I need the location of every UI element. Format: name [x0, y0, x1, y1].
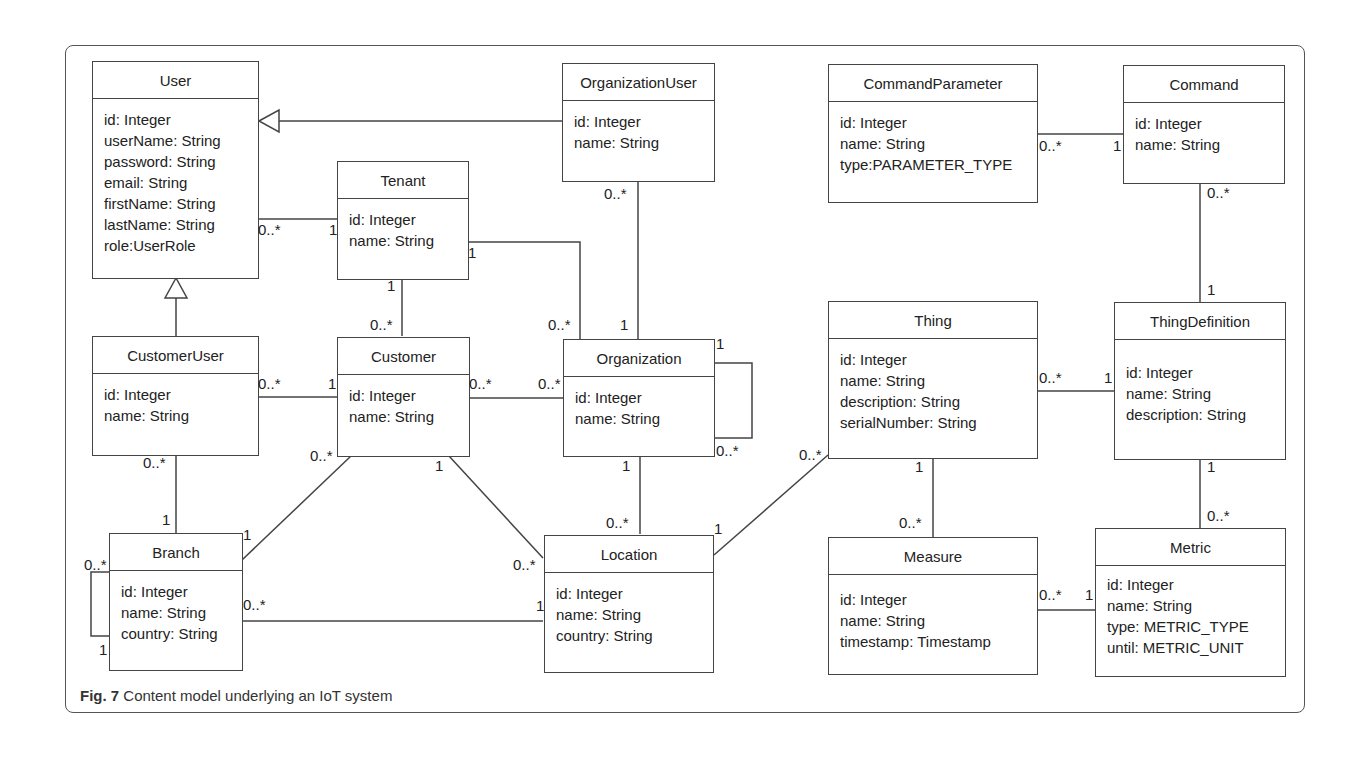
multiplicity-label: 1 — [622, 458, 630, 474]
attribute: id: Integer — [1107, 574, 1285, 595]
multiplicity-label: 1 — [716, 336, 724, 352]
attribute: id: Integer — [1126, 362, 1285, 383]
attribute: firstName: String — [104, 193, 258, 214]
attribute: password: String — [104, 151, 258, 172]
attribute: lastName: String — [104, 214, 258, 235]
class-user-attributes: id: Integer userName: String password: S… — [93, 99, 258, 256]
class-measure-attributes: id: Integer name: String timestamp: Time… — [829, 575, 1037, 652]
attribute: email: String — [104, 172, 258, 193]
class-metric-attributes: id: Integer name: String type: METRIC_TY… — [1096, 566, 1285, 658]
multiplicity-label: 0..* — [1039, 370, 1062, 386]
attribute: name: String — [1135, 134, 1284, 155]
multiplicity-label: 1 — [915, 459, 923, 475]
multiplicity-label: 1 — [435, 458, 443, 474]
figure-caption-text: Content model underlying an IoT system — [119, 687, 392, 704]
attribute: until: METRIC_UNIT — [1107, 637, 1285, 658]
attribute: name: String — [574, 132, 714, 153]
multiplicity-label: 1 — [1104, 370, 1112, 386]
class-measure[interactable]: Measure id: Integer name: String timesta… — [828, 537, 1038, 675]
attribute: name: String — [104, 405, 258, 426]
class-command[interactable]: Command id: Integer name: String — [1123, 65, 1285, 184]
class-organization[interactable]: Organization id: Integer name: String — [563, 339, 715, 457]
class-user-name: User — [93, 62, 258, 99]
multiplicity-label: 0..* — [799, 447, 822, 463]
multiplicity-label: 1 — [1207, 282, 1215, 298]
multiplicity-label: 0..* — [84, 557, 107, 573]
multiplicity-label: 1 — [243, 527, 251, 543]
attribute: name: String — [840, 133, 1037, 154]
multiplicity-label: 0..* — [1207, 508, 1230, 524]
attribute: id: Integer — [574, 111, 714, 132]
class-command-parameter[interactable]: CommandParameter id: Integer name: Strin… — [828, 64, 1038, 203]
class-thing-definition[interactable]: ThingDefinition id: Integer name: String… — [1114, 302, 1286, 460]
attribute: id: Integer — [349, 209, 468, 230]
attribute: type: METRIC_TYPE — [1107, 616, 1285, 637]
attribute: id: Integer — [1135, 113, 1284, 134]
multiplicity-label: 1 — [536, 598, 544, 614]
multiplicity-label: 0..* — [604, 186, 627, 202]
attribute: name: String — [1107, 595, 1285, 616]
class-customer-attributes: id: Integer name: String — [338, 375, 469, 427]
multiplicity-label: 0..* — [1039, 587, 1062, 603]
attribute: name: String — [121, 602, 242, 623]
class-customer[interactable]: Customer id: Integer name: String — [337, 337, 470, 457]
class-metric[interactable]: Metric id: Integer name: String type: ME… — [1095, 528, 1286, 677]
class-branch-name: Branch — [110, 534, 242, 571]
multiplicity-label: 1 — [329, 222, 337, 238]
multiplicity-label: 1 — [328, 376, 336, 392]
class-measure-name: Measure — [829, 538, 1037, 575]
multiplicity-label: 1 — [620, 317, 628, 333]
attribute: name: String — [575, 408, 714, 429]
multiplicity-label: 0..* — [370, 317, 393, 333]
figure-caption-label: Fig. 7 — [80, 687, 119, 704]
multiplicity-label: 1 — [1085, 587, 1093, 603]
attribute: name: String — [349, 230, 468, 251]
attribute: id: Integer — [121, 581, 242, 602]
class-organization-user-name: OrganizationUser — [563, 64, 714, 101]
class-user[interactable]: User id: Integer userName: String passwo… — [92, 61, 259, 279]
attribute: description: String — [1126, 404, 1285, 425]
class-command-parameter-name: CommandParameter — [829, 65, 1037, 102]
class-branch[interactable]: Branch id: Integer name: String country:… — [109, 533, 243, 671]
attribute: id: Integer — [556, 583, 713, 604]
attribute: timestamp: Timestamp — [840, 631, 1037, 652]
class-customer-name: Customer — [338, 338, 469, 375]
attribute: name: String — [349, 406, 469, 427]
multiplicity-label: 0..* — [143, 455, 166, 471]
attribute: role:UserRole — [104, 235, 258, 256]
attribute: country: String — [556, 625, 713, 646]
multiplicity-label: 1 — [468, 245, 476, 261]
class-thing-attributes: id: Integer name: String description: St… — [829, 339, 1037, 433]
multiplicity-label: 1 — [1207, 459, 1215, 475]
attribute: id: Integer — [575, 387, 714, 408]
multiplicity-label: 0..* — [548, 317, 571, 333]
attribute: description: String — [840, 391, 1037, 412]
attribute: id: Integer — [104, 109, 258, 130]
multiplicity-label: 0..* — [243, 597, 266, 613]
attribute: country: String — [121, 623, 242, 644]
multiplicity-label: 0..* — [716, 443, 739, 459]
class-customer-user-name: CustomerUser — [93, 337, 258, 374]
class-customer-user[interactable]: CustomerUser id: Integer name: String — [92, 336, 259, 456]
attribute: name: String — [1126, 383, 1285, 404]
class-tenant-attributes: id: Integer name: String — [338, 199, 468, 251]
attribute: name: String — [840, 370, 1037, 391]
multiplicity-label: 0..* — [258, 222, 281, 238]
class-tenant[interactable]: Tenant id: Integer name: String — [337, 161, 469, 280]
multiplicity-label: 1 — [387, 278, 395, 294]
class-location-attributes: id: Integer name: String country: String — [545, 573, 713, 646]
multiplicity-label: 0..* — [899, 515, 922, 531]
class-command-name: Command — [1124, 66, 1284, 103]
class-organization-attributes: id: Integer name: String — [564, 377, 714, 429]
multiplicity-label: 1 — [162, 512, 170, 528]
class-organization-user[interactable]: OrganizationUser id: Integer name: Strin… — [562, 63, 715, 182]
class-metric-name: Metric — [1096, 529, 1285, 566]
class-branch-attributes: id: Integer name: String country: String — [110, 571, 242, 644]
multiplicity-label: 1 — [1113, 138, 1121, 154]
multiplicity-label: 0..* — [606, 515, 629, 531]
attribute: serialNumber: String — [840, 412, 1037, 433]
figure-caption: Fig. 7 Content model underlying an IoT s… — [80, 687, 392, 704]
class-thing[interactable]: Thing id: Integer name: String descripti… — [828, 301, 1038, 459]
class-location[interactable]: Location id: Integer name: String countr… — [544, 535, 714, 673]
attribute: id: Integer — [840, 349, 1037, 370]
